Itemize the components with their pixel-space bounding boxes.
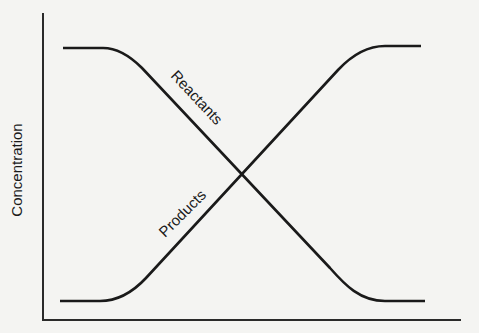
y-axis-label: Concentration	[8, 123, 25, 216]
concentration-vs-time-chart: Reactants Products Concentration	[0, 0, 479, 333]
reactants-label: Reactants	[168, 67, 226, 128]
reactants-curve	[63, 48, 425, 301]
products-label: Products	[155, 186, 209, 240]
